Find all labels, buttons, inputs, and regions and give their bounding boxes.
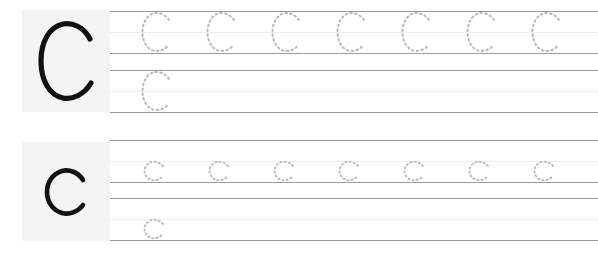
trace-letter-uppercase[interactable] bbox=[270, 11, 304, 53]
rule-line-baseline bbox=[110, 112, 598, 113]
trace-letter-lowercase[interactable] bbox=[337, 160, 363, 182]
trace-letter-uppercase[interactable] bbox=[140, 70, 174, 112]
model-letter-uppercase-c bbox=[35, 19, 97, 103]
writing-band-uppercase-2[interactable] bbox=[110, 70, 598, 112]
rule-line-baseline bbox=[110, 182, 598, 183]
trace-letter-uppercase[interactable] bbox=[205, 11, 239, 53]
trace-letter-lowercase[interactable] bbox=[467, 160, 493, 182]
rule-line-baseline bbox=[110, 53, 598, 54]
trace-letter-lowercase[interactable] bbox=[402, 160, 428, 182]
rule-line-baseline bbox=[110, 240, 598, 241]
model-letter-lowercase-c bbox=[43, 166, 89, 218]
trace-letter-lowercase[interactable] bbox=[142, 218, 168, 240]
practice-section-lowercase bbox=[0, 128, 598, 257]
writing-band-uppercase-1[interactable] bbox=[110, 11, 598, 53]
trace-row bbox=[110, 198, 598, 240]
trace-letter-uppercase[interactable] bbox=[335, 11, 369, 53]
writing-band-lowercase-2[interactable] bbox=[110, 198, 598, 240]
trace-row bbox=[110, 140, 598, 182]
model-letter-panel-uppercase bbox=[22, 10, 110, 112]
trace-row bbox=[110, 11, 598, 53]
trace-letter-lowercase[interactable] bbox=[272, 160, 298, 182]
trace-letter-lowercase[interactable] bbox=[532, 160, 558, 182]
trace-letter-lowercase[interactable] bbox=[207, 160, 233, 182]
model-letter-panel-lowercase bbox=[22, 142, 110, 241]
trace-row bbox=[110, 70, 598, 112]
trace-letter-uppercase[interactable] bbox=[140, 11, 174, 53]
writing-band-lowercase-1[interactable] bbox=[110, 140, 598, 182]
trace-letter-uppercase[interactable] bbox=[530, 11, 564, 53]
trace-letter-uppercase[interactable] bbox=[400, 11, 434, 53]
handwriting-worksheet bbox=[0, 0, 598, 257]
trace-letter-lowercase[interactable] bbox=[142, 160, 168, 182]
trace-letter-uppercase[interactable] bbox=[465, 11, 499, 53]
practice-section-uppercase bbox=[0, 0, 598, 128]
